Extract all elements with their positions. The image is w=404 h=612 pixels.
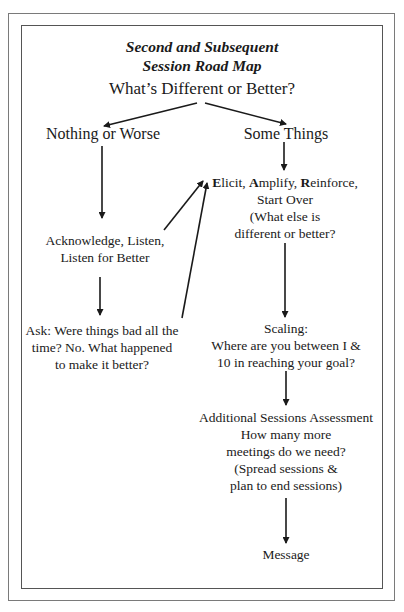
title-line-2: Session Road Map	[0, 56, 404, 75]
amplify-initial: A	[249, 175, 259, 190]
acknowledge-node: Acknowledge, Listen, Listen for Better	[30, 232, 180, 266]
inner-frame	[21, 25, 383, 589]
ear-line-3: (What else is	[197, 208, 373, 225]
ear-line-1: Elicit, Amplify, Reinforce,	[197, 174, 373, 191]
root-question: What’s Different or Better?	[0, 78, 404, 99]
ear-line-2: Start Over	[197, 191, 373, 208]
reinforce-initial: R	[301, 175, 311, 190]
title-line-1: Second and Subsequent	[0, 37, 404, 56]
scaling-line-3: 10 in reaching your goal?	[200, 354, 372, 371]
ask-line-3: to make it better?	[24, 356, 180, 373]
scaling-node: Scaling: Where are you between I & 10 in…	[200, 320, 372, 371]
assessment-line-5: plan to end sessions)	[190, 477, 382, 494]
assessment-line-4: (Spread sessions &	[190, 460, 382, 477]
diagram-title: Second and Subsequent Session Road Map	[0, 37, 404, 75]
ask-node: Ask: Were things bad all the time? No. W…	[24, 322, 180, 373]
assessment-node: Additional Sessions Assessment How many …	[190, 409, 382, 494]
right-branch-label: Some Things	[232, 124, 340, 144]
acknowledge-line-1: Acknowledge, Listen,	[30, 232, 180, 249]
message-node: Message	[236, 546, 336, 563]
left-branch-label: Nothing or Worse	[30, 124, 176, 144]
assessment-line-1: Additional Sessions Assessment	[190, 409, 382, 426]
scaling-line-1: Scaling:	[200, 320, 372, 337]
ear-node: Elicit, Amplify, Reinforce, Start Over (…	[197, 174, 373, 242]
acknowledge-line-2: Listen for Better	[30, 249, 180, 266]
scaling-line-2: Where are you between I &	[200, 337, 372, 354]
elicit-initial: E	[212, 175, 221, 190]
assessment-line-2: How many more	[190, 426, 382, 443]
ask-line-2: time? No. What happened	[24, 339, 180, 356]
assessment-line-3: meetings do we need?	[190, 443, 382, 460]
ear-line-4: different or better?	[197, 225, 373, 242]
ask-line-1: Ask: Were things bad all the	[24, 322, 180, 339]
